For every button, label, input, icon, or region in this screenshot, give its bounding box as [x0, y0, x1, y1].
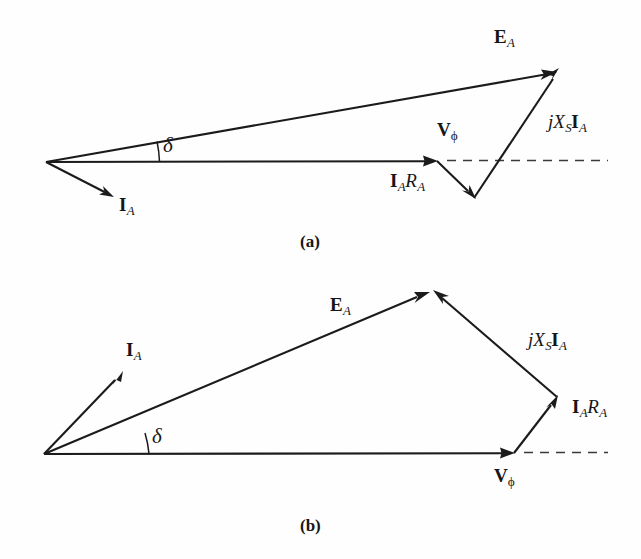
- label-ia-ra-b: IARA: [572, 397, 607, 416]
- label-v-phi-a: Vϕ: [437, 120, 458, 139]
- vector-jxs-ia-a: [474, 68, 559, 198]
- phasor-diagram-svg: [0, 0, 641, 559]
- panel-a-vectors: [46, 68, 608, 199]
- label-v-phi-b: Vϕ: [494, 466, 515, 485]
- vector-ia-a: [46, 162, 114, 197]
- panel-b-vectors: [44, 290, 608, 459]
- caption-panel-b: (b): [300, 517, 321, 534]
- angle-arc-delta-b: [145, 433, 149, 454]
- label-ea-b: EA: [330, 295, 351, 314]
- vector-ia-b: [44, 371, 123, 454]
- label-ia-b: IA: [126, 340, 141, 359]
- vector-ea-a: [46, 70, 557, 163]
- angle-arc-delta-a: [157, 142, 160, 162]
- label-jxs-ia-b: jXSIA: [528, 330, 567, 349]
- vector-ea-b: [44, 292, 430, 454]
- label-jxs-ia-a: jXSIA: [548, 112, 587, 131]
- caption-panel-a: (a): [300, 233, 320, 250]
- phasor-figure: EA Vϕ jXSIA IARA IA δ (a) EA IA jXSIA IA…: [0, 0, 641, 559]
- label-ia-ra-a: IARA: [390, 171, 425, 190]
- vector-ia-ra-a: [437, 161, 476, 199]
- label-ea-a: EA: [494, 27, 515, 46]
- label-ia-a: IA: [119, 195, 134, 214]
- label-delta-b: δ: [152, 426, 162, 447]
- vector-v-phi-a: [46, 156, 438, 167]
- label-delta-a: δ: [163, 135, 173, 156]
- vector-v-phi-b: [44, 448, 515, 459]
- vector-ia-ra-b: [514, 395, 558, 453]
